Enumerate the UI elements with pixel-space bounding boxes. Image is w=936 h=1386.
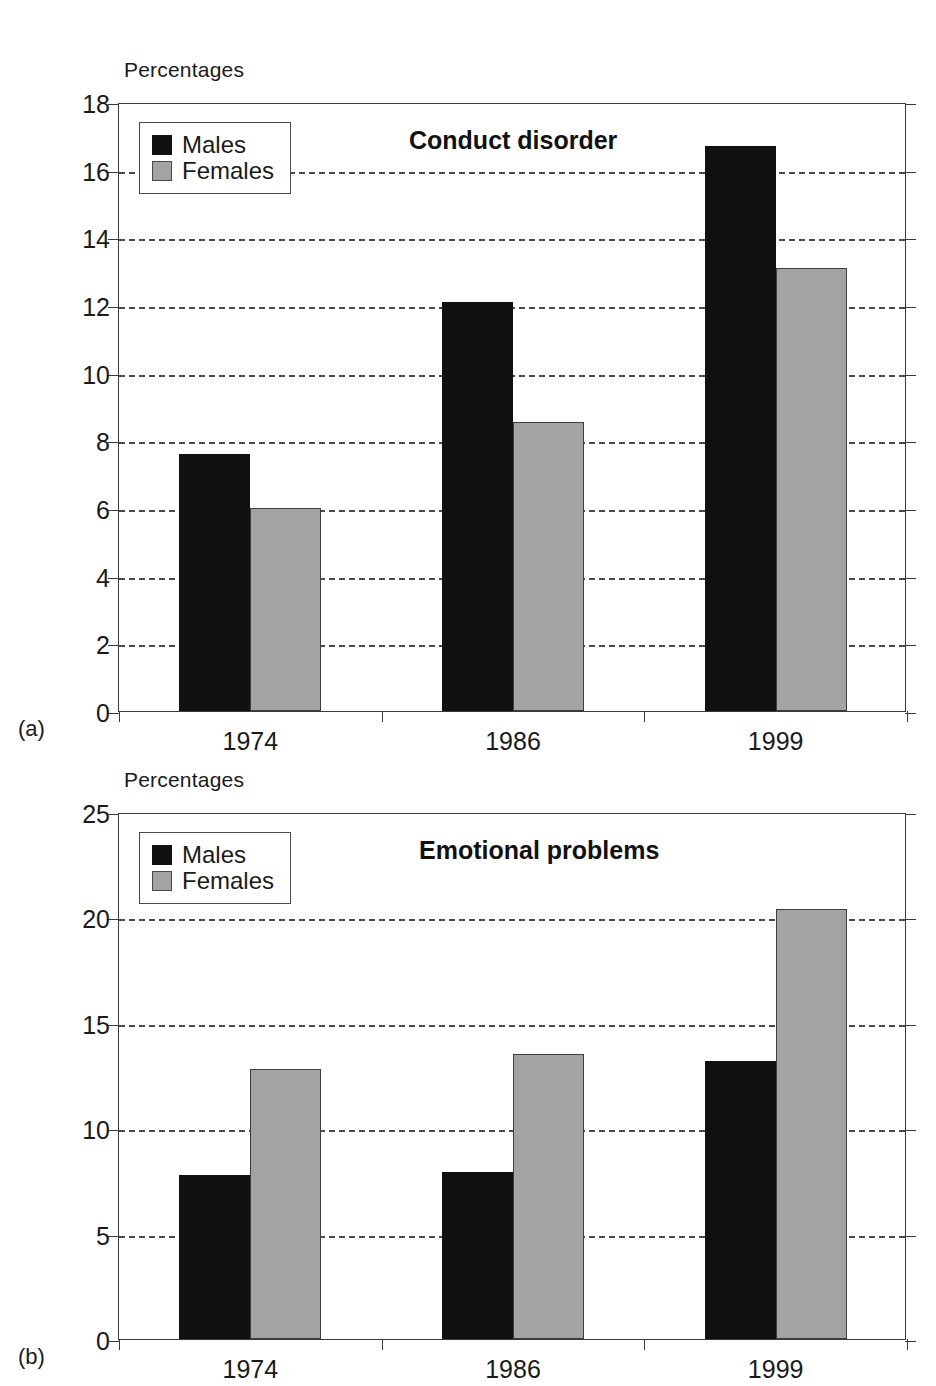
- y-axis-tick-label: 12: [82, 295, 110, 320]
- y-axis-tick-mark: [905, 1236, 916, 1237]
- y-axis-tick-label: 0: [96, 701, 110, 726]
- y-axis-tick-label: 6: [96, 498, 110, 523]
- chart-title: Conduct disorder: [409, 126, 617, 155]
- y-axis-tick-mark: [905, 375, 916, 376]
- y-axis-tick-label: 10: [82, 362, 110, 387]
- y-axis-tick-mark: [905, 172, 916, 173]
- y-axis-unit-label: Percentages: [124, 768, 244, 792]
- figure-root: Percentages (a) 024681012141618197419861…: [0, 0, 936, 1386]
- x-axis-tick-label: 1986: [485, 1355, 541, 1384]
- chart-title: Emotional problems: [419, 836, 659, 865]
- bar-females-1974: [250, 1069, 321, 1339]
- panel-emotional-problems: Percentages (b) 0510152025197419861999Ma…: [0, 760, 936, 1386]
- legend-swatch-males-icon: [152, 845, 172, 865]
- y-axis-tick-label: 18: [82, 92, 110, 117]
- bar-males-1986: [442, 302, 513, 711]
- bar-males-1986: [442, 1172, 513, 1339]
- legend-item-males: Males: [152, 132, 274, 158]
- y-axis-tick-label: 14: [82, 227, 110, 252]
- legend-item-males: Males: [152, 842, 274, 868]
- legend-swatch-females-icon: [152, 871, 172, 891]
- legend-item-females: Females: [152, 158, 274, 184]
- bar-females-1986: [513, 422, 584, 711]
- y-axis-tick-mark: [905, 578, 916, 579]
- x-axis-tick-mark: [644, 1339, 645, 1350]
- y-axis-tick-mark: [905, 239, 916, 240]
- y-axis-tick-label: 16: [82, 159, 110, 184]
- legend-label: Females: [182, 158, 274, 184]
- legend-swatch-males-icon: [152, 135, 172, 155]
- bar-females-1999: [776, 268, 847, 711]
- legend-label: Males: [182, 132, 246, 158]
- y-axis-tick-label: 0: [96, 1329, 110, 1354]
- x-axis-tick-label: 1999: [748, 727, 804, 756]
- bar-females-1986: [513, 1054, 584, 1339]
- y-axis-tick-mark: [905, 510, 916, 511]
- bar-males-1974: [179, 1175, 250, 1339]
- x-axis-tick-mark: [382, 1339, 383, 1350]
- legend-item-females: Females: [152, 868, 274, 894]
- chart-legend: MalesFemales: [139, 832, 291, 904]
- x-axis-tick-label: 1974: [223, 1355, 279, 1384]
- x-axis-tick-mark: [644, 711, 645, 722]
- y-axis-tick-mark: [905, 919, 916, 920]
- bar-females-1974: [250, 508, 321, 711]
- y-axis-tick-label: 8: [96, 430, 110, 455]
- x-axis-tick-mark: [382, 711, 383, 722]
- x-axis-tick-mark: [907, 711, 908, 722]
- y-axis-unit-label: Percentages: [124, 58, 244, 82]
- chart-legend: MalesFemales: [139, 122, 291, 194]
- y-axis-tick-mark: [905, 645, 916, 646]
- y-axis-tick-mark: [905, 442, 916, 443]
- panel-conduct-disorder: Percentages (a) 024681012141618197419861…: [0, 0, 936, 760]
- y-axis-tick-label: 5: [96, 1223, 110, 1248]
- gridline: [119, 239, 905, 241]
- bar-males-1999: [705, 146, 776, 711]
- plot-area-a: 024681012141618197419861999MalesFemalesC…: [118, 103, 906, 712]
- y-axis-tick-label: 10: [82, 1118, 110, 1143]
- bar-females-1999: [776, 909, 847, 1339]
- y-axis-tick-label: 4: [96, 565, 110, 590]
- y-axis-tick-mark: [905, 307, 916, 308]
- bar-males-1999: [705, 1061, 776, 1339]
- x-axis-tick-mark: [119, 711, 120, 722]
- y-axis-tick-label: 15: [82, 1012, 110, 1037]
- y-axis-tick-label: 20: [82, 907, 110, 932]
- y-axis-tick-label: 2: [96, 633, 110, 658]
- plot-area-b: 0510152025197419861999MalesFemalesEmotio…: [118, 813, 906, 1340]
- y-axis-tick-mark: [905, 1025, 916, 1026]
- x-axis-tick-label: 1974: [223, 727, 279, 756]
- legend-swatch-females-icon: [152, 161, 172, 181]
- x-axis-tick-label: 1999: [748, 1355, 804, 1384]
- x-axis-tick-mark: [119, 1339, 120, 1350]
- bar-males-1974: [179, 454, 250, 711]
- legend-label: Females: [182, 868, 274, 894]
- y-axis-tick-mark: [905, 814, 916, 815]
- panel-tag-a: (a): [18, 716, 45, 742]
- y-axis-tick-label: 25: [82, 802, 110, 827]
- x-axis-tick-mark: [907, 1339, 908, 1350]
- legend-label: Males: [182, 842, 246, 868]
- y-axis-tick-mark: [905, 104, 916, 105]
- panel-tag-b: (b): [18, 1344, 45, 1370]
- x-axis-tick-label: 1986: [485, 727, 541, 756]
- y-axis-tick-mark: [905, 1130, 916, 1131]
